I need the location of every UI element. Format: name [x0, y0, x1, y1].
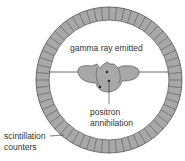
- positron-label-2: annihilation: [90, 118, 133, 128]
- positron-label-1: positron: [90, 107, 120, 117]
- body-cross-section: [78, 62, 139, 92]
- gamma-ray-label: gamma ray emitted: [70, 43, 143, 53]
- scintillation-label-2: counters: [4, 142, 37, 152]
- scintillation-label-1: scintillation: [4, 131, 46, 141]
